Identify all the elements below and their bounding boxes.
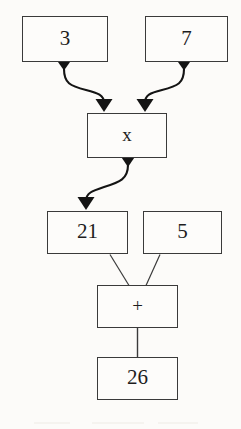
edge-3-to-x <box>56 59 113 113</box>
node-operand-7: 7 <box>145 16 228 62</box>
scan-artifact <box>158 422 198 424</box>
node-operand-21: 21 <box>47 211 128 254</box>
scan-artifact <box>34 422 70 424</box>
edge-5-to-plus <box>146 255 160 286</box>
node-label: 5 <box>177 221 188 242</box>
node-label: 7 <box>181 28 192 49</box>
node-operator-multiply: x <box>87 113 167 158</box>
node-operator-plus: + <box>97 285 178 328</box>
scan-artifact <box>92 422 144 424</box>
node-label: 21 <box>77 221 98 242</box>
diagram-canvas: 3 7 x 21 5 + 26 <box>0 0 241 429</box>
node-label: x <box>122 125 132 144</box>
node-operand-3: 3 <box>22 16 108 62</box>
edge-21-to-plus <box>110 255 129 286</box>
node-label: 26 <box>127 367 148 388</box>
edge-7-to-x <box>137 59 193 113</box>
node-result-26: 26 <box>97 357 178 400</box>
node-operand-5: 5 <box>143 211 222 254</box>
node-label: 3 <box>60 28 71 49</box>
node-label: + <box>132 296 143 315</box>
edge-x-to-21 <box>78 155 137 211</box>
